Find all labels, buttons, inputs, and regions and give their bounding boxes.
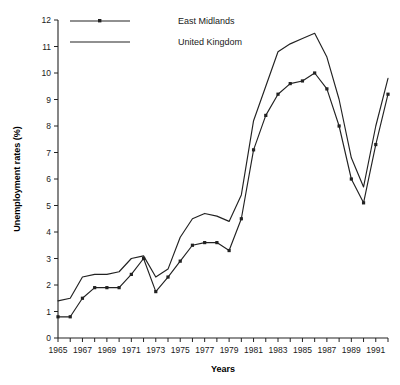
data-point [81, 297, 84, 300]
data-point [69, 315, 72, 318]
x-tick-label: 1973 [146, 345, 165, 355]
y-tick-label: 5 [46, 201, 51, 211]
chart-legend: East Midlands United Kingdom [70, 16, 242, 47]
x-tick-label: 1971 [122, 345, 141, 355]
data-point [240, 217, 243, 220]
x-tick-label: 1965 [49, 345, 68, 355]
series-east-midlands [56, 71, 389, 318]
data-point [264, 114, 267, 117]
series-layer [56, 33, 389, 318]
series-united-kingdom [58, 33, 388, 301]
data-point [56, 315, 59, 318]
x-tick-label: 1979 [220, 345, 239, 355]
legend-label-united-kingdom: United Kingdom [178, 37, 242, 47]
x-tick-label: 1985 [293, 345, 312, 355]
data-point [313, 71, 316, 74]
data-point [228, 249, 231, 252]
x-axis-tick-labels: 1965196719691971197319751977197919811983… [49, 345, 386, 355]
unemployment-rates-line-chart: 0123456789101112 19651967196919711973197… [0, 0, 400, 385]
y-axis-title: Unemployment rates (%) [12, 126, 22, 232]
y-tick-label: 6 [46, 174, 51, 184]
y-axis-tick-labels: 0123456789101112 [42, 15, 52, 343]
data-point [301, 79, 304, 82]
data-point [118, 286, 121, 289]
x-tick-label: 1991 [366, 345, 385, 355]
y-tick-label: 0 [46, 333, 51, 343]
y-tick-label: 7 [46, 148, 51, 158]
data-point [215, 241, 218, 244]
data-point [325, 87, 328, 90]
data-point [93, 286, 96, 289]
y-tick-label: 9 [46, 95, 51, 105]
data-point [191, 244, 194, 247]
data-point [105, 286, 108, 289]
data-point [166, 275, 169, 278]
x-tick-label: 1967 [73, 345, 92, 355]
data-point [130, 273, 133, 276]
legend-marker-east-midlands [98, 19, 101, 22]
y-tick-label: 10 [42, 68, 52, 78]
data-point [276, 93, 279, 96]
data-point [203, 241, 206, 244]
x-tick-label: 1969 [97, 345, 116, 355]
y-tick-label: 3 [46, 254, 51, 264]
x-tick-label: 1989 [342, 345, 361, 355]
x-tick-label: 1975 [171, 345, 190, 355]
data-point [154, 290, 157, 293]
data-point [338, 124, 341, 127]
y-tick-label: 8 [46, 121, 51, 131]
x-tick-label: 1987 [317, 345, 336, 355]
y-tick-label: 11 [42, 42, 51, 52]
x-axis-ticks [58, 338, 388, 342]
y-tick-label: 4 [46, 227, 51, 237]
data-point [386, 93, 389, 96]
series-line [58, 33, 388, 301]
y-tick-label: 12 [42, 15, 52, 25]
chart-figure: 0123456789101112 19651967196919711973197… [0, 0, 400, 385]
x-tick-label: 1983 [269, 345, 288, 355]
legend-label-east-midlands: East Midlands [178, 16, 235, 26]
legend-item-east-midlands: East Midlands [70, 16, 235, 26]
series-line [58, 73, 388, 317]
y-tick-label: 1 [46, 307, 51, 317]
data-point [362, 201, 365, 204]
y-axis-ticks [54, 20, 58, 338]
data-point [374, 143, 377, 146]
x-tick-label: 1981 [244, 345, 263, 355]
data-point [179, 260, 182, 263]
data-point [252, 148, 255, 151]
x-axis-title: Years [211, 364, 235, 374]
legend-item-united-kingdom: United Kingdom [70, 37, 242, 47]
data-point [289, 82, 292, 85]
y-tick-label: 2 [46, 280, 51, 290]
x-tick-label: 1977 [195, 345, 214, 355]
data-point [350, 177, 353, 180]
